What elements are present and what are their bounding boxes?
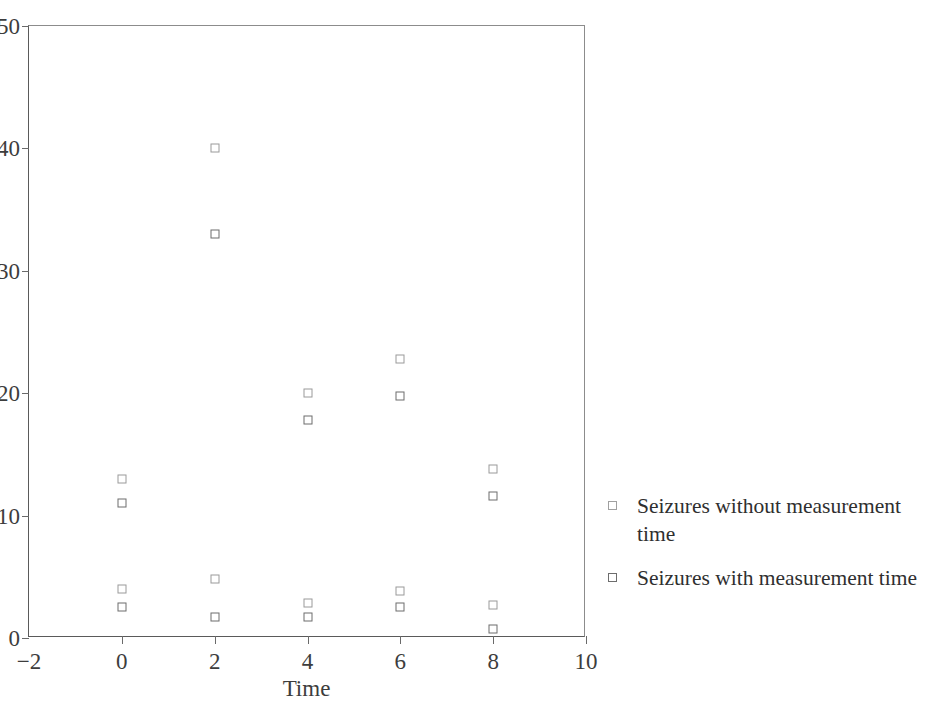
x-tick-label: 4 [302,650,314,673]
x-tick-mark [586,636,587,644]
data-point [303,389,312,398]
legend-label: Seizures without measurement time [637,492,924,549]
scatter-chart-figure: 01020304050 −20246810 Time Seizures with… [0,0,926,724]
legend-label: Seizures with measurement time [637,564,917,592]
plot-frame: 01020304050 −20246810 [28,25,585,637]
x-tick-mark [122,636,123,644]
x-tick-mark [308,636,309,644]
y-tick-mark [22,271,29,272]
data-point [210,575,219,584]
y-tick-label: 40 [0,137,20,160]
x-axis-title: Time [28,676,585,702]
data-point [489,465,498,474]
x-tick-label: 8 [487,650,499,673]
y-tick-label: 50 [0,15,20,38]
data-point [303,613,312,622]
y-tick-mark [22,26,29,27]
data-point [210,230,219,239]
data-point [117,603,126,612]
x-tick-label: 6 [395,650,407,673]
legend-marker-square-icon [608,501,617,510]
y-tick-mark [22,638,29,639]
data-point [489,600,498,609]
data-point [210,613,219,622]
x-tick-label: 2 [209,650,221,673]
y-tick-label: 0 [9,627,21,650]
plot-area [29,26,584,636]
y-tick-mark [22,148,29,149]
x-tick-mark [215,636,216,644]
data-point [117,474,126,483]
y-tick-label: 10 [0,504,20,527]
x-tick-label: −2 [17,650,41,673]
data-point [303,416,312,425]
data-point [396,354,405,363]
y-tick-label: 30 [0,259,20,282]
legend-marker-square-icon [608,573,617,582]
data-point [396,603,405,612]
x-tick-label: 10 [575,650,598,673]
x-tick-mark [493,636,494,644]
data-point [117,585,126,594]
y-tick-label: 20 [0,382,20,405]
data-point [489,492,498,501]
chart-legend: Seizures without measurement timeSeizure… [608,492,924,607]
y-tick-mark [22,516,29,517]
x-tick-mark [400,636,401,644]
legend-entry[interactable]: Seizures with measurement time [608,564,924,592]
data-point [396,587,405,596]
data-point [210,144,219,153]
data-point [117,499,126,508]
data-point [489,625,498,634]
data-point [303,598,312,607]
y-tick-mark [22,393,29,394]
legend-entry[interactable]: Seizures without measurement time [608,492,924,549]
x-tick-label: 0 [116,650,128,673]
data-point [396,391,405,400]
